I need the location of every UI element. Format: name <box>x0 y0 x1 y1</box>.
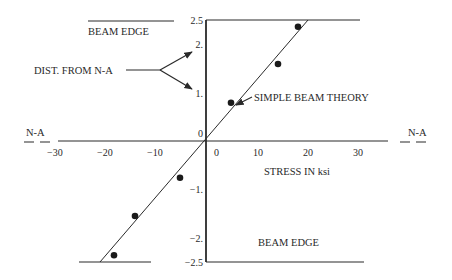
y-tick-label: −2.5 <box>185 257 203 268</box>
x-tick-label: 20 <box>303 147 313 158</box>
x-tick-label: −20 <box>97 147 113 158</box>
arrow-to-1-icon <box>160 70 192 89</box>
y-tick-label: 2. <box>196 39 204 50</box>
data-point <box>295 23 302 30</box>
data-point <box>275 61 282 68</box>
x-axis-label: STRESS IN ksi <box>264 166 330 177</box>
x-tick-label: 10 <box>253 147 263 158</box>
x-tick-label: 0 <box>214 147 219 158</box>
y-tick-label: −2. <box>190 233 203 244</box>
na-right-label: N-A <box>408 127 427 138</box>
x-tick-label: −10 <box>147 147 163 158</box>
data-point <box>111 252 118 259</box>
arrow-to-2-icon <box>160 52 192 70</box>
beam-edge-top-label: BEAM EDGE <box>88 26 149 37</box>
data-point <box>132 213 139 220</box>
data-point <box>177 174 184 181</box>
y-tick-label: −1. <box>190 184 203 195</box>
y-tick-label: 1. <box>196 88 204 99</box>
annotations: BEAM EDGE BEAM EDGE DIST. FROM N-A SIMPL… <box>26 26 427 248</box>
y-tick-label: 2.5 <box>191 15 204 26</box>
y-tick-label: 0 <box>198 128 203 139</box>
beam-edge-bottom-label: BEAM EDGE <box>258 237 319 248</box>
stress-distribution-chart: −30−20−1001020302.52.1.0−1.−2.−2.5 BEAM … <box>0 0 452 280</box>
dist-from-na-label: DIST. FROM N-A <box>34 65 113 76</box>
data-point <box>228 99 235 106</box>
axes <box>24 20 432 262</box>
simple-beam-theory-label: SIMPLE BEAM THEORY <box>254 92 369 103</box>
x-tick-label: −30 <box>47 147 63 158</box>
x-tick-label: 30 <box>353 147 363 158</box>
na-left-label: N-A <box>26 127 45 138</box>
